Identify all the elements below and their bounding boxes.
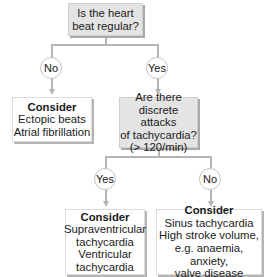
- connector-q2-horizontal: [105, 156, 211, 158]
- result-title: Consider: [28, 101, 77, 114]
- result-item: e.g. anaemia, anxiety,: [157, 242, 261, 267]
- sub-yes-label: Yes: [94, 168, 116, 190]
- tachycardia-question-box: Are there discrete attacks of tachycardi…: [119, 97, 198, 148]
- question-line: of tachycardia?: [120, 129, 197, 142]
- sub-no-label: No: [199, 168, 221, 190]
- result-title: Consider: [185, 204, 234, 217]
- arrow-no: [49, 89, 55, 95]
- question-line: Are there: [135, 91, 181, 104]
- arrow-sub-yes: [103, 201, 109, 207]
- question-line: discrete attacks: [120, 104, 197, 129]
- result-item: High stroke volume,: [159, 229, 259, 242]
- connector-root-horizontal: [51, 44, 158, 46]
- result-item: Sinus tachycardia: [164, 217, 253, 230]
- branch-yes-label: Yes: [146, 57, 168, 79]
- result-item: Atrial fibrillation: [14, 126, 91, 139]
- root-question-line-2: beat regular?: [72, 20, 139, 33]
- root-question-box: Is the heart beat regular?: [68, 3, 143, 36]
- root-question-line-1: Is the heart: [77, 7, 134, 20]
- result-box-no-attacks: Consider Sinus tachycardia High stroke v…: [156, 209, 262, 275]
- result-item: Ventricular: [78, 248, 131, 261]
- result-box-irregular: Consider Ectopic beats Atrial fibrillati…: [12, 97, 92, 142]
- result-item: Ectopic beats: [18, 113, 86, 126]
- result-item: Supraventricular: [64, 223, 146, 236]
- question-line: (> 120/min): [130, 141, 187, 154]
- branch-no-label: No: [40, 57, 62, 79]
- result-item: tachycardia: [76, 261, 134, 274]
- result-item: valve disease: [175, 267, 243, 277]
- result-item: tachycardia: [76, 236, 134, 249]
- result-title: Consider: [81, 211, 130, 224]
- result-box-attacks: Consider Supraventricular tachycardia Ve…: [65, 209, 145, 275]
